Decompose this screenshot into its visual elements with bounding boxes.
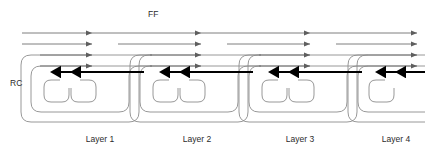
layer-label-2: Layer 2 <box>183 134 212 144</box>
rc-loops-layer-2 <box>130 55 261 122</box>
rc-inner-loop-left-layer-2 <box>153 80 178 102</box>
rc-inner-loop-right-layer-2 <box>180 80 205 102</box>
rc-label: RC <box>10 78 22 88</box>
layer-label-1: Layer 1 <box>86 134 115 144</box>
recurrent-connections-group <box>21 55 425 122</box>
rc-inner-loop-left-layer-4 <box>369 80 394 102</box>
diagram-root: FF RC Layer 1 Layer 2 Layer 3 Layer 4 <box>0 0 425 155</box>
rc-inner-loop-left-layer-1 <box>44 80 69 102</box>
layer-label-4: Layer 4 <box>382 134 411 144</box>
rc-loops-layer-3 <box>239 55 368 122</box>
ff-label: FF <box>148 9 158 19</box>
rc-inner-loop-right-layer-3 <box>289 80 314 102</box>
rc-inner-loop-right-layer-1 <box>71 80 96 102</box>
network-diagram-svg: FF RC Layer 1 Layer 2 Layer 3 Layer 4 <box>0 0 425 155</box>
rc-loops-layer-1 <box>21 55 152 122</box>
rc-inner-loop-left-layer-3 <box>262 80 287 102</box>
layer-label-3: Layer 3 <box>286 134 315 144</box>
rc-loops-layer-4 <box>348 55 425 122</box>
